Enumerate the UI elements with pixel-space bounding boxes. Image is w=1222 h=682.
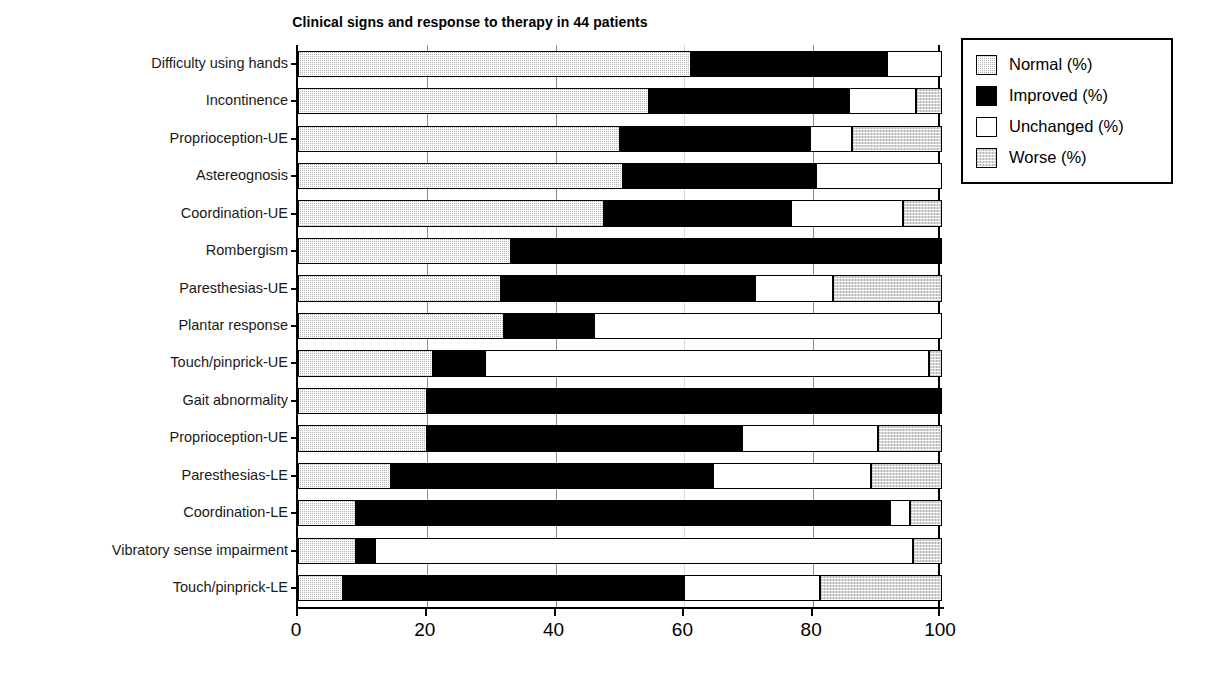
y-axis-tick xyxy=(291,63,298,65)
y-axis-label: Astereognosis xyxy=(196,168,288,183)
bar-segment-unchanged xyxy=(742,425,877,451)
bar-row: Incontinence xyxy=(298,88,940,114)
bar-segment-normal xyxy=(298,238,511,264)
bar-row: Gait abnormality xyxy=(298,388,940,414)
stacked-bar xyxy=(298,163,940,189)
y-axis-tick xyxy=(291,100,298,102)
x-axis-tick-80 xyxy=(811,607,813,616)
bar-segment-improved xyxy=(356,538,375,564)
legend-item-improved[interactable]: Improved (%) xyxy=(976,80,1171,111)
bar-row: Proprioception-UE xyxy=(298,425,940,451)
bar-segment-normal xyxy=(298,500,356,526)
stacked-bar xyxy=(298,200,940,226)
x-axis-label-60: 60 xyxy=(672,619,693,641)
bar-row: Coordination-LE xyxy=(298,500,940,526)
bar-row: Paresthesias-UE xyxy=(298,275,940,301)
x-axis-label-20: 20 xyxy=(414,619,435,641)
y-axis-label: Paresthesias-LE xyxy=(182,468,288,483)
bar-segment-improved xyxy=(504,313,594,339)
bar-segment-improved xyxy=(391,463,713,489)
y-axis-tick xyxy=(291,512,298,514)
y-axis-tick xyxy=(291,250,298,252)
bar-segment-normal xyxy=(298,275,501,301)
bar-segment-unchanged xyxy=(791,200,904,226)
y-axis-label: Vibratory sense impairment xyxy=(112,543,288,558)
bar-segment-normal xyxy=(298,313,504,339)
bar-segment-unchanged xyxy=(594,313,942,339)
bar-segment-worse xyxy=(910,500,942,526)
y-axis-tick xyxy=(291,587,298,589)
y-axis-label: Gait abnormality xyxy=(182,393,288,408)
x-axis-label-100: 100 xyxy=(924,619,956,641)
bar-segment-normal xyxy=(298,88,649,114)
stacked-bar xyxy=(298,350,940,376)
stacked-bar xyxy=(298,425,940,451)
bar-segment-worse xyxy=(820,575,942,601)
stacked-bar xyxy=(298,313,940,339)
bar-segment-unchanged xyxy=(375,538,913,564)
y-axis-tick xyxy=(291,550,298,552)
bar-segment-normal xyxy=(298,126,620,152)
bar-segment-worse xyxy=(929,350,942,376)
y-axis-tick xyxy=(291,288,298,290)
y-axis-label: Incontinence xyxy=(206,93,288,108)
y-axis-tick xyxy=(291,400,298,402)
y-axis-tick xyxy=(291,437,298,439)
bar-segment-normal xyxy=(298,200,604,226)
legend-swatch-worse-icon xyxy=(976,148,997,168)
bar-segment-improved xyxy=(623,163,816,189)
stacked-bar xyxy=(298,388,940,414)
bar-segment-unchanged xyxy=(887,51,942,77)
legend-item-normal[interactable]: Normal (%) xyxy=(976,49,1171,80)
legend-item-worse[interactable]: Worse (%) xyxy=(976,142,1171,173)
bar-segment-normal xyxy=(298,350,433,376)
bar-segment-normal xyxy=(298,463,391,489)
bar-segment-improved xyxy=(501,275,755,301)
stacked-bar xyxy=(298,275,940,301)
bar-segment-normal xyxy=(298,51,691,77)
bar-row: Touch/pinprick-UE xyxy=(298,350,940,376)
y-axis-tick xyxy=(291,475,298,477)
bar-row: Vibratory sense impairment xyxy=(298,538,940,564)
bar-row: Rombergism xyxy=(298,238,940,264)
stacked-bar xyxy=(298,88,940,114)
bar-row: Proprioception-UE xyxy=(298,126,940,152)
y-axis-tick xyxy=(291,325,298,327)
y-axis-label: Paresthesias-UE xyxy=(179,281,288,296)
y-axis-label: Rombergism xyxy=(206,243,288,258)
x-axis-label-40: 40 xyxy=(543,619,564,641)
bar-segment-improved xyxy=(427,425,743,451)
bar-segment-unchanged xyxy=(684,575,819,601)
x-axis-label-0: 0 xyxy=(291,619,302,641)
bar-row: Paresthesias-LE xyxy=(298,463,940,489)
bar-segment-improved xyxy=(427,388,942,414)
bar-segment-worse xyxy=(916,88,942,114)
y-axis-tick xyxy=(291,362,298,364)
legend-label-normal: Normal (%) xyxy=(1009,55,1092,74)
x-axis-tick-0 xyxy=(296,607,298,616)
y-axis-label: Touch/pinprick-LE xyxy=(173,580,288,595)
bar-row: Plantar response xyxy=(298,313,940,339)
y-axis-tick xyxy=(291,138,298,140)
legend-item-unchanged[interactable]: Unchanged (%) xyxy=(976,111,1171,142)
stacked-bar xyxy=(298,126,940,152)
y-axis-label: Coordination-UE xyxy=(181,206,288,221)
bar-segment-worse xyxy=(852,126,942,152)
bar-row: Difficulty using hands xyxy=(298,51,940,77)
y-axis-label: Touch/pinprick-UE xyxy=(170,355,288,370)
stacked-bar xyxy=(298,463,940,489)
x-axis-tick-40 xyxy=(554,607,556,616)
bar-segment-improved xyxy=(433,350,485,376)
bar-segment-improved xyxy=(691,51,887,77)
bar-segment-improved xyxy=(356,500,891,526)
stacked-bar xyxy=(298,575,940,601)
legend-label-worse: Worse (%) xyxy=(1009,148,1087,167)
legend-swatch-normal-icon xyxy=(976,55,997,75)
bar-segment-unchanged xyxy=(713,463,871,489)
x-axis-tick-100 xyxy=(938,607,940,616)
y-axis-label: Difficulty using hands xyxy=(151,56,288,71)
stacked-bar xyxy=(298,51,940,77)
bar-segment-unchanged xyxy=(849,88,917,114)
y-axis-tick xyxy=(291,175,298,177)
bar-segment-unchanged xyxy=(816,163,942,189)
